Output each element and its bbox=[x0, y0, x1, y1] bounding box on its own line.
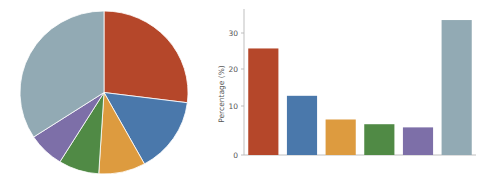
bar-chart: Percentage (%) 0 10 20 30 bbox=[212, 0, 483, 183]
pie-slice bbox=[104, 11, 188, 103]
y-tick-label-0: 0 bbox=[233, 151, 238, 160]
bar bbox=[326, 119, 356, 155]
bar bbox=[287, 96, 317, 155]
bar bbox=[403, 127, 433, 155]
bar bbox=[442, 20, 472, 155]
y-tick-label-20: 20 bbox=[228, 65, 238, 74]
bar-group bbox=[248, 20, 472, 155]
bar bbox=[248, 48, 278, 155]
y-tick-label-10: 10 bbox=[228, 102, 238, 111]
pie-chart-panel bbox=[0, 0, 212, 183]
bar-chart-panel: Percentage (%) 0 10 20 30 bbox=[212, 0, 483, 183]
y-axis-title: Percentage (%) bbox=[217, 65, 226, 123]
bar bbox=[364, 124, 394, 155]
figure-canvas: Percentage (%) 0 10 20 30 bbox=[0, 0, 483, 183]
y-tick-label-30: 30 bbox=[228, 29, 238, 38]
pie-chart bbox=[18, 9, 190, 176]
pie-slice-group bbox=[20, 11, 188, 174]
